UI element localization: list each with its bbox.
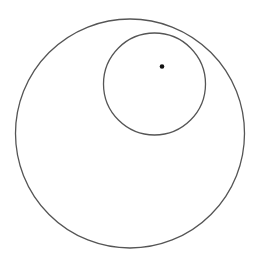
inner-circle <box>104 33 206 135</box>
point-dot <box>160 64 165 69</box>
circles-diagram <box>0 0 259 269</box>
outer-circle <box>16 19 245 248</box>
